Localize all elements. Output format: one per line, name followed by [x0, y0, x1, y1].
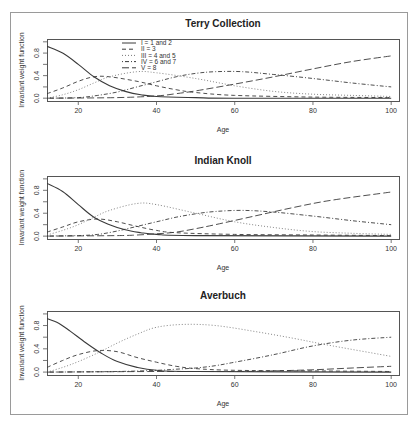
y-axis-label: Invariant weight function [18, 305, 26, 381]
x-tick-label: 40 [153, 107, 161, 114]
y-tick-label: 0.0 [33, 231, 40, 241]
x-tick-label: 40 [153, 245, 161, 252]
y-axis-label: Invariant weight function [18, 32, 26, 108]
x-tick-label: 80 [309, 381, 317, 388]
y-tick-label: 0.0 [33, 93, 40, 103]
x-tick-label: 60 [231, 381, 239, 388]
x-tick-label: 40 [153, 381, 161, 388]
panel-title: Indian Knoll [194, 155, 251, 166]
x-tick-label: 80 [309, 107, 317, 114]
x-tick-label: 80 [309, 245, 317, 252]
y-tick-label: 0.0 [33, 367, 40, 377]
x-tick-label: 20 [74, 381, 82, 388]
figure: Terry Collection204060801000.00.40.8AgeI… [0, 0, 413, 425]
y-tick-label: 0.4 [33, 71, 40, 81]
outer-frame [11, 13, 408, 415]
y-tick-label: 0.4 [33, 208, 40, 218]
x-axis-label: Age [217, 400, 230, 408]
panel-title: Terry Collection [185, 18, 260, 29]
x-tick-label: 60 [231, 107, 239, 114]
x-tick-label: 20 [74, 245, 82, 252]
x-tick-label: 60 [231, 245, 239, 252]
y-axis-label: Invariant weight function [18, 170, 26, 246]
x-tick-label: 100 [385, 381, 397, 388]
y-tick-label: 0.8 [33, 321, 40, 331]
x-tick-label: 100 [385, 107, 397, 114]
y-tick-label: 0.4 [33, 344, 40, 354]
panel-title: Averbuch [200, 290, 246, 301]
x-tick-label: 100 [385, 245, 397, 252]
x-axis-label: Age [217, 126, 230, 134]
x-axis-label: Age [217, 264, 230, 272]
y-tick-label: 0.8 [33, 185, 40, 195]
y-tick-label: 0.8 [33, 48, 40, 58]
legend-label: V = 8 [141, 64, 157, 71]
x-tick-label: 20 [74, 107, 82, 114]
